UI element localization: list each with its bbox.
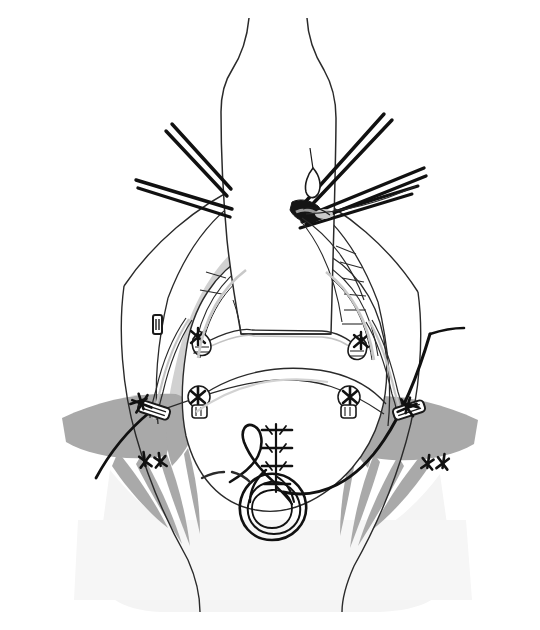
- pledgeted-suture-left-mid: [188, 386, 210, 418]
- pledgeted-suture-right-mid: [338, 386, 360, 418]
- lower-field-wash-secondary: [74, 520, 472, 600]
- illustration-canvas: Operative field: median sternotomy with …: [0, 0, 540, 630]
- surgical-illustration: Operative field: median sternotomy with …: [0, 0, 540, 630]
- surgical-clip: [153, 315, 162, 334]
